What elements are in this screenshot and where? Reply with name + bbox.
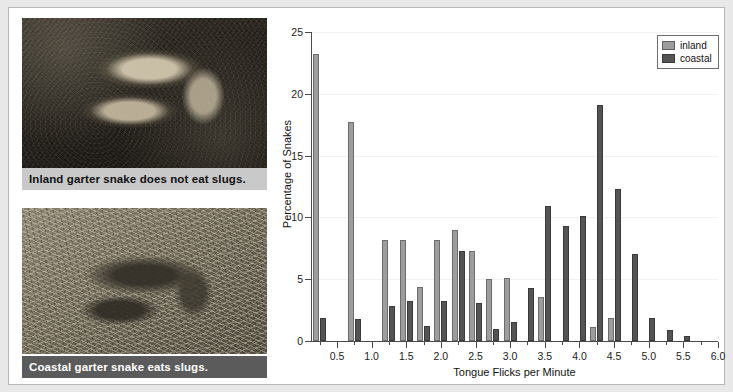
bar-inland: [434, 240, 440, 341]
coastal-garter-snake-photo: [22, 208, 267, 354]
x-axis-title: Tongue Flicks per Minute: [311, 366, 718, 378]
bar-coastal: [493, 329, 499, 341]
x-tick-minor: [354, 342, 355, 345]
bar-coastal: [441, 301, 447, 341]
bar-inland: [504, 278, 510, 341]
bar-inland: [486, 279, 492, 341]
bar-coastal: [320, 318, 326, 341]
bar-inland: [417, 287, 423, 341]
bar-coastal: [389, 306, 395, 341]
y-tick-label: 25: [277, 26, 303, 38]
x-tick-minor: [597, 342, 598, 345]
x-tick-label: 5.0: [641, 350, 656, 362]
x-tick-label: 5.5: [676, 350, 691, 362]
bar-coastal: [545, 206, 551, 341]
x-tick-major: [718, 342, 719, 348]
coastal-snake-caption: Coastal garter snake eats slugs.: [22, 356, 267, 378]
bar-coastal: [580, 216, 586, 341]
legend-item-coastal: coastal: [662, 52, 712, 65]
bar-coastal: [424, 326, 430, 341]
x-tick-label: 6.0: [711, 350, 726, 362]
y-tick-label: 0: [277, 335, 303, 347]
legend-label-inland: inland: [680, 40, 707, 51]
coastal-snake-image: [22, 208, 267, 354]
x-tick-major: [372, 342, 373, 348]
x-tick-minor: [701, 342, 702, 345]
x-tick-major: [441, 342, 442, 348]
bar-inland: [590, 327, 596, 341]
x-tick-minor: [458, 342, 459, 345]
bar-coastal: [528, 288, 534, 341]
bar-inland: [538, 297, 544, 341]
bar-coastal: [632, 254, 638, 341]
x-tick-minor: [424, 342, 425, 345]
inland-snake-caption: Inland garter snake does not eat slugs.: [22, 168, 267, 190]
bar-coastal: [649, 318, 655, 341]
legend-item-inland: inland: [662, 39, 712, 52]
x-tick-minor: [527, 342, 528, 345]
bar-coastal: [355, 319, 361, 341]
x-tick-label: 3.0: [503, 350, 518, 362]
bar-coastal: [459, 251, 465, 341]
figure-frame: Inland garter snake does not eat slugs. …: [8, 7, 725, 385]
bar-inland: [469, 251, 475, 341]
coastal-snake-card: Coastal garter snake eats slugs.: [22, 208, 267, 378]
legend-swatch-coastal: [662, 54, 675, 63]
inland-garter-snake-photo: [22, 18, 267, 168]
x-tick-minor: [493, 342, 494, 345]
bar-coastal: [407, 301, 413, 341]
bar-inland: [348, 122, 354, 341]
x-tick-major: [510, 342, 511, 348]
inland-snake-card: Inland garter snake does not eat slugs.: [22, 18, 267, 190]
bar-inland: [313, 54, 319, 341]
bar-coastal: [476, 303, 482, 341]
bar-coastal: [615, 189, 621, 341]
bars-layer: [311, 32, 718, 341]
x-tick-minor: [631, 342, 632, 345]
x-tick-label: 4.0: [572, 350, 587, 362]
bar-inland: [382, 240, 388, 341]
x-tick-minor: [389, 342, 390, 345]
x-tick-major: [337, 342, 338, 348]
x-tick-label: 3.5: [537, 350, 552, 362]
x-tick-minor: [320, 342, 321, 345]
x-tick-major: [406, 342, 407, 348]
x-tick-label: 2.0: [434, 350, 449, 362]
chart-legend: inland coastal: [657, 35, 719, 69]
x-tick-minor: [562, 342, 563, 345]
x-tick-major: [649, 342, 650, 348]
x-tick-major: [476, 342, 477, 348]
x-tick-label: 4.5: [607, 350, 622, 362]
inland-snake-image: [22, 18, 267, 168]
x-tick-label: 2.5: [468, 350, 483, 362]
bar-coastal: [563, 226, 569, 341]
photo-column: Inland garter snake does not eat slugs. …: [22, 18, 267, 378]
y-axis-labels: 0510152025: [275, 18, 303, 358]
x-tick-label: 1.0: [364, 350, 379, 362]
legend-label-coastal: coastal: [680, 53, 712, 64]
y-tick-label: 15: [277, 150, 303, 162]
histogram-chart: Percentage of Snakes 0510152025 0.51.01.…: [275, 18, 718, 378]
x-tick-major: [683, 342, 684, 348]
x-tick-major: [545, 342, 546, 348]
bar-coastal: [597, 105, 603, 341]
bar-coastal: [684, 336, 690, 341]
y-tick-label: 10: [277, 211, 303, 223]
x-tick-label: 0.5: [330, 350, 345, 362]
x-tick-major: [614, 342, 615, 348]
bar-coastal: [511, 322, 517, 341]
x-tick-label: 1.5: [399, 350, 414, 362]
legend-swatch-inland: [662, 41, 675, 50]
y-tick-label: 20: [277, 88, 303, 100]
bar-inland: [608, 318, 614, 341]
bar-inland: [400, 240, 406, 341]
y-tick-label: 5: [277, 273, 303, 285]
x-tick-major: [579, 342, 580, 348]
figure-root: Inland garter snake does not eat slugs. …: [0, 0, 733, 392]
bar-coastal: [667, 330, 673, 341]
x-tick-minor: [666, 342, 667, 345]
bar-inland: [452, 230, 458, 341]
